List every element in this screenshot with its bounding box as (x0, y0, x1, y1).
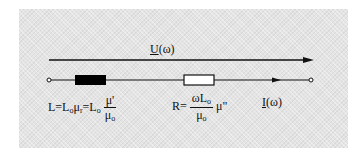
inductance-formula: L=Loμr=Lo μ' μo (48, 94, 116, 123)
inductor-block (75, 75, 106, 85)
right-terminal-icon (309, 78, 313, 82)
formula-text: ωL (192, 91, 207, 105)
circuit-drawing (0, 0, 364, 156)
current-arg: (ω) (266, 95, 282, 109)
voltage-symbol: U (150, 42, 159, 56)
fraction: μ' μo (104, 94, 117, 123)
current-label: I(ω) (262, 96, 282, 108)
formula-text: R= (172, 99, 187, 113)
fraction: ωLo μo (190, 92, 213, 123)
left-terminal-icon (47, 78, 51, 82)
numerator: μ' (104, 94, 117, 108)
formula-text: =L (83, 100, 97, 114)
voltage-arrow (49, 57, 314, 63)
current-arrow-icon (272, 78, 281, 83)
denominator: μo (190, 108, 213, 123)
formula-text: L=L (48, 100, 69, 114)
formula-sub: o (111, 114, 115, 123)
resistance-formula: R= ωLo μo μ" (172, 92, 227, 123)
denominator: μo (104, 108, 117, 123)
formula-sub: o (207, 97, 211, 106)
voltage-arg: (ω) (159, 42, 175, 56)
voltage-label: U(ω) (150, 43, 175, 55)
numerator: ωLo (190, 92, 213, 108)
formula-sub: o (97, 106, 101, 115)
formula-text: μ" (216, 99, 227, 113)
resistor-block (184, 75, 214, 85)
formula-sub: o (203, 114, 207, 123)
